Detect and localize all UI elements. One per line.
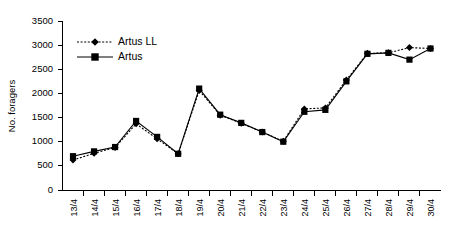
data-point-marker-square [91, 148, 97, 154]
data-point-marker-square [238, 120, 244, 126]
data-point-marker-square [385, 50, 391, 56]
data-point-marker-square [406, 57, 412, 63]
x-tick-label: 30/4 [426, 199, 436, 217]
legend-label-artus: Artus [118, 50, 143, 62]
x-tick-label: 22/4 [258, 199, 268, 217]
y-tick-label: 1500 [32, 111, 53, 122]
y-tick-label: 1000 [32, 135, 53, 146]
y-axis-title: No. foragers [6, 80, 17, 133]
data-point-marker-square [322, 107, 328, 113]
legend: Artus LL Artus [77, 35, 157, 62]
x-tick-label: 29/4 [405, 199, 415, 217]
legend-entry-artus-ll: Artus LL [77, 35, 157, 47]
x-tick-label: 18/4 [174, 199, 184, 217]
x-tick-label: 16/4 [132, 199, 142, 217]
x-tick-label: 27/4 [363, 199, 373, 217]
data-point-marker-square [175, 151, 181, 157]
x-tick-label: 15/4 [111, 199, 121, 217]
data-point-marker-square [217, 112, 223, 118]
data-point-marker-square [154, 134, 160, 140]
data-point-marker-square [280, 139, 286, 145]
x-tick-label: 20/4 [216, 199, 226, 217]
legend-label-artus-ll: Artus LL [118, 35, 157, 47]
data-point-marker-square [112, 144, 118, 150]
series-line-artus-ll [73, 48, 430, 161]
y-tick-label: 3000 [32, 39, 53, 50]
x-tick-group: 13/414/415/416/417/418/419/420/421/422/4… [69, 191, 436, 217]
data-point-marker-square [259, 129, 265, 135]
data-point-marker-square [343, 78, 349, 84]
data-point-marker-square [364, 51, 370, 57]
y-tick-label: 3500 [32, 15, 53, 26]
x-tick-label: 28/4 [384, 199, 394, 217]
data-point-marker-square [196, 86, 202, 92]
data-point-marker-square [427, 45, 433, 51]
y-tick-label: 500 [37, 159, 53, 170]
series-line-artus [73, 49, 430, 157]
x-tick-label: 21/4 [237, 199, 247, 217]
x-tick-label: 24/4 [300, 199, 310, 217]
x-tick-label: 26/4 [342, 199, 352, 217]
x-tick-label: 23/4 [279, 199, 289, 217]
y-tick-label: 0 [48, 184, 53, 195]
y-tick-label: 2500 [32, 63, 53, 74]
x-tick-label: 14/4 [90, 199, 100, 217]
x-tick-label: 19/4 [195, 199, 205, 217]
x-tick-label: 17/4 [153, 199, 163, 217]
data-point-marker-diamond [406, 44, 413, 51]
data-point-marker-square [133, 118, 139, 124]
x-axis-group: 13/414/415/416/417/418/419/420/421/422/4… [63, 191, 442, 217]
data-point-marker-square [70, 153, 76, 159]
x-tick-label: 25/4 [321, 199, 331, 217]
y-tick-label: 2000 [32, 87, 53, 98]
y-axis-group: 0500100015002000250030003500 No. forager… [6, 15, 63, 195]
legend-diamond-icon [91, 38, 99, 46]
legend-entry-artus: Artus [77, 50, 143, 62]
chart-container: 0500100015002000250030003500 No. forager… [0, 0, 453, 237]
data-point-marker-square [301, 109, 307, 115]
legend-square-icon [91, 53, 98, 60]
x-tick-label: 13/4 [69, 199, 79, 217]
y-tick-group: 0500100015002000250030003500 [32, 15, 63, 195]
foragers-line-chart: 0500100015002000250030003500 No. forager… [0, 0, 453, 237]
